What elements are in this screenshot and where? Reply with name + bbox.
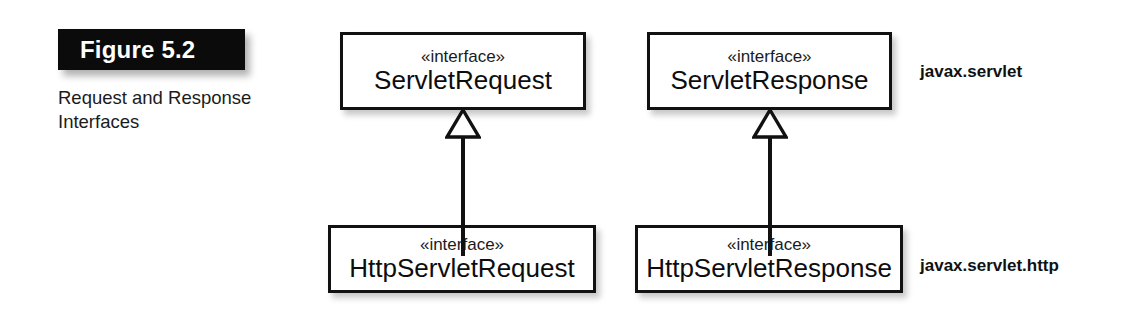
package-label-javax-servlet: javax.servlet bbox=[920, 62, 1022, 82]
uml-class-servlet-request: «interface» ServletRequest bbox=[340, 32, 586, 110]
uml-class-servlet-response: «interface» ServletResponse bbox=[647, 32, 892, 110]
figure-caption: Request and Response Interfaces bbox=[58, 86, 273, 133]
uml-class-name: ServletResponse bbox=[671, 67, 869, 94]
uml-stereotype: «interface» bbox=[727, 48, 811, 66]
uml-class-name: ServletRequest bbox=[374, 67, 552, 94]
uml-class-name: HttpServletResponse bbox=[646, 255, 892, 282]
figure-number-text: Figure 5.2 bbox=[58, 38, 195, 62]
uml-class-name: HttpServletRequest bbox=[349, 255, 574, 282]
generalization-stem bbox=[768, 137, 772, 256]
hollow-triangle-icon bbox=[752, 108, 788, 139]
generalization-stem bbox=[461, 137, 465, 256]
uml-stereotype: «interface» bbox=[421, 48, 505, 66]
figure-number-badge: Figure 5.2 bbox=[58, 29, 245, 70]
figure-root: Figure 5.2 Request and Response Interfac… bbox=[0, 0, 1136, 319]
hollow-triangle-icon bbox=[445, 108, 481, 139]
package-label-javax-servlet-http: javax.servlet.http bbox=[920, 256, 1059, 276]
